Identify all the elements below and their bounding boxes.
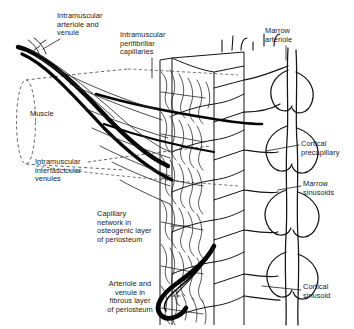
marrow-vessel-stubs [222, 34, 280, 52]
diagram-artwork [0, 0, 354, 329]
major-intramuscular-arterioles [18, 47, 262, 180]
marrow-vessel-network [244, 48, 319, 325]
leader-cortical-sinusoid [262, 286, 301, 290]
periosteum-capillary-network [161, 70, 210, 325]
anatomical-figure: Intramuscular arteriole and venule Intra… [0, 0, 354, 329]
leader-cortical-precapillary [266, 145, 299, 151]
leader-interfascicular-venules [88, 146, 210, 162]
